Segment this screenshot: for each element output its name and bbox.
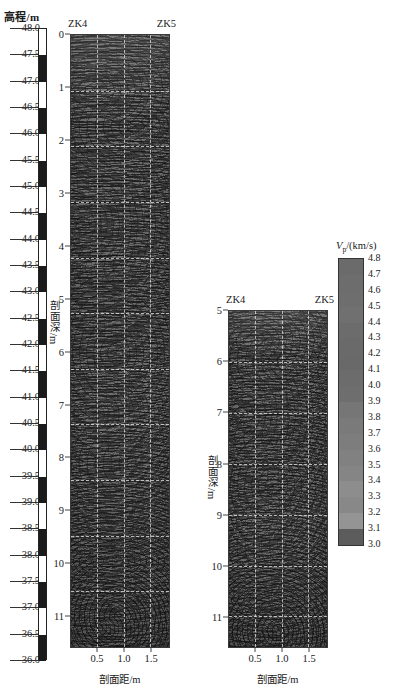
x-axis-tick [151, 648, 152, 652]
elevation-tick-rule [10, 28, 40, 29]
elevation-segment [39, 371, 46, 397]
elevation-tick-rule [10, 291, 40, 292]
elevation-segment [39, 213, 46, 239]
x-axis-tick-label: 1.0 [275, 653, 288, 664]
tomography-panel-left: ZK4 ZK5 [70, 34, 170, 648]
elevation-tick-rule [10, 634, 40, 635]
colorbar-swatch [339, 497, 363, 513]
elevation-segment [39, 345, 46, 371]
elevation-segment [39, 29, 46, 55]
y-axis-tick [223, 463, 228, 464]
elevation-tick-rule [10, 528, 40, 529]
colorbar-swatch [339, 466, 363, 482]
y-axis-tick [65, 34, 70, 35]
elevation-tick-rule [10, 107, 40, 108]
elevation-segment [39, 477, 46, 503]
y-axis-tick-label: 1 [48, 81, 64, 92]
y-axis-tick [65, 563, 70, 564]
colorbar-tick-label: 4.3 [368, 332, 381, 342]
elevation-scale: 48.047.547.046.546.045.545.044.544.043.5… [10, 28, 50, 660]
elevation-segment [39, 582, 46, 608]
colorbar-tick-label: 4.5 [368, 301, 381, 311]
colorbar-swatch [339, 275, 363, 291]
elevation-tick-labels: 48.047.547.046.546.045.545.044.544.043.5… [10, 28, 40, 660]
y-axis-tick [223, 566, 228, 567]
colorbar-swatch [339, 434, 363, 450]
elevation-segment [39, 55, 46, 81]
x-axis-tick [309, 648, 310, 652]
y-axis-tick [223, 412, 228, 413]
elevation-segment [39, 292, 46, 318]
x-axis-tick [255, 648, 256, 652]
colorbar-tick-label: 3.4 [368, 475, 381, 485]
x-axis-tick [282, 648, 283, 652]
colorbar-tick-label: 3.5 [368, 460, 381, 470]
colorbar-unit: /(km/s) [346, 240, 376, 251]
colorbar-tick-label: 3.7 [368, 428, 381, 438]
x-axis-tick-label: 1.5 [145, 653, 158, 664]
elevation-tick-rule [10, 186, 40, 187]
y-axis-tick [65, 351, 70, 352]
x-axis-tick-label: 1.5 [303, 653, 316, 664]
borehole-label-zk4-left: ZK4 [68, 18, 87, 29]
elevation-segment [39, 635, 46, 661]
y-axis-title-left: 剖面深/m [46, 300, 61, 344]
colorbar-swatch [339, 386, 363, 402]
y-axis-tick [223, 310, 228, 311]
colorbar-tick-label: 3.0 [368, 539, 381, 549]
y-axis-tick-label: 6 [48, 346, 64, 357]
y-axis-tick-label: 0 [48, 29, 64, 40]
colorbar-swatch [339, 402, 363, 418]
elevation-tick-rule [10, 607, 40, 608]
colorbar-swatch [339, 370, 363, 386]
y-axis-tick [65, 245, 70, 246]
y-axis-tick-label: 10 [48, 558, 64, 569]
borehole-label-zk5-right: ZK5 [315, 294, 334, 305]
colorbar-tick-label: 4.7 [368, 269, 381, 279]
elevation-segment [39, 424, 46, 450]
colorbar-tick-label: 4.1 [368, 364, 381, 374]
y-axis-tick-label: 11 [48, 611, 64, 622]
colorbar-swatch [339, 418, 363, 434]
colorbar-tick-label: 3.3 [368, 491, 381, 501]
colorbar-swatch [339, 323, 363, 339]
figure-root: 高程/m 48.047.547.046.546.045.545.044.544.… [0, 0, 393, 691]
elevation-tick-rule [10, 344, 40, 345]
elevation-tick-rule [10, 318, 40, 319]
colorbar-swatch [339, 259, 363, 275]
colorbar-tick-label: 3.8 [368, 412, 381, 422]
y-axis-tick [223, 514, 228, 515]
elevation-tick-rule [10, 397, 40, 398]
elevation-segment [39, 529, 46, 555]
colorbar-swatch [339, 450, 363, 466]
x-axis-tick-label: 0.5 [248, 653, 261, 664]
elevation-tick-rule [10, 555, 40, 556]
y-axis-tick [65, 457, 70, 458]
y-axis-tick-label: 7 [48, 399, 64, 410]
colorbar-swatch [339, 529, 363, 545]
y-axis-tick [65, 139, 70, 140]
colorbar-tick-label: 4.4 [368, 317, 381, 327]
y-axis-tick [65, 404, 70, 405]
borehole-label-zk5-left: ZK5 [157, 18, 176, 29]
y-axis-tick-label: 9 [206, 509, 222, 520]
elevation-tick-rule [10, 239, 40, 240]
colorbar-swatch [339, 291, 363, 307]
colorbar-tick-label: 3.6 [368, 444, 381, 454]
elevation-tick-rule [10, 449, 40, 450]
elevation-segment [39, 503, 46, 529]
elevation-tick-rule [10, 133, 40, 134]
y-axis-tick-label: 3 [48, 187, 64, 198]
elevation-tick-rule [10, 476, 40, 477]
y-axis-tick [223, 617, 228, 618]
elevation-tick-rule [10, 370, 40, 371]
colorbar-tick-label: 4.2 [368, 348, 381, 358]
elevation-segment [39, 240, 46, 266]
y-axis-tick [65, 510, 70, 511]
colorbar-swatch [339, 513, 363, 529]
y-axis-title-right: 剖面深/m [204, 455, 219, 499]
x-axis-tick [124, 648, 125, 652]
elevation-segment [39, 450, 46, 476]
colorbar-legend: Vp/(km/s) 4.84.74.64.54.44.34.24.14.03.9… [336, 240, 393, 560]
elevation-segment [39, 134, 46, 160]
